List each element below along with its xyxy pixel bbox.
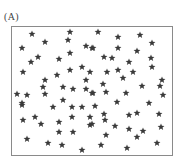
star-icon [114, 98, 121, 105]
star-icon [42, 38, 49, 45]
star-icon [126, 58, 133, 65]
star-icon [35, 53, 42, 60]
star-icon [29, 30, 36, 37]
star-icon [42, 76, 49, 83]
star-icon [120, 74, 127, 81]
star-icon [134, 47, 141, 54]
star-icon [112, 122, 119, 129]
star-icon [69, 103, 76, 110]
star-icon [67, 49, 74, 56]
star-icon [69, 113, 76, 120]
star-icon [115, 33, 122, 40]
star-icon [79, 103, 86, 110]
star-icon [146, 99, 153, 106]
star-icon [130, 68, 137, 75]
star-icon [83, 76, 90, 83]
star-icon [156, 110, 163, 117]
star-icon [159, 76, 166, 83]
star-icon [79, 63, 86, 70]
star-icon [109, 54, 116, 61]
star-icon [139, 82, 146, 89]
star-icon [101, 110, 108, 117]
star-scatter [0, 0, 178, 162]
star-icon [124, 144, 131, 151]
star-icon [60, 96, 67, 103]
star-icon [56, 118, 63, 125]
star-icon [87, 68, 94, 75]
star-icon [103, 88, 110, 95]
star-icon [126, 111, 133, 118]
star-icon [158, 123, 165, 130]
star-icon [126, 125, 133, 132]
star-icon [67, 66, 74, 73]
star-icon [101, 53, 108, 60]
star-icon [19, 44, 26, 51]
star-icon [40, 83, 47, 90]
star-icon [42, 90, 49, 97]
star-icon [115, 66, 122, 73]
star-icon [134, 133, 141, 140]
star-icon [59, 141, 66, 148]
star-icon [56, 55, 63, 62]
star-icon [154, 139, 161, 146]
star-icon [28, 58, 35, 65]
star-icon [140, 127, 147, 134]
star-icon [70, 128, 77, 135]
star-icon [115, 44, 122, 51]
star-icon [103, 131, 110, 138]
star-icon [14, 90, 21, 97]
star-icon [134, 109, 141, 116]
star-icon [20, 68, 27, 75]
star-icon [87, 113, 94, 120]
star-icon [157, 82, 164, 89]
star-icon [160, 91, 167, 98]
star-icon [60, 83, 67, 90]
star-icon [123, 89, 130, 96]
star-icon [83, 42, 90, 49]
star-icon [32, 113, 39, 120]
star-icon [45, 139, 52, 146]
star-icon [79, 146, 86, 153]
star-icon [50, 103, 57, 110]
star-icon [148, 54, 155, 61]
star-icon [104, 68, 111, 75]
star-icon [137, 31, 144, 38]
star-icon [149, 39, 156, 46]
star-icon [38, 120, 45, 127]
star-icon [100, 80, 107, 87]
star-icon [95, 28, 102, 35]
star-icon [98, 141, 105, 148]
star-icon [67, 28, 74, 35]
star-icon [83, 85, 90, 92]
star-icon [54, 71, 61, 78]
star-icon [20, 116, 27, 123]
star-icon [56, 128, 63, 135]
star-icon [65, 36, 72, 43]
star-icon [149, 63, 156, 70]
star-icon [24, 91, 31, 98]
star-icon [92, 102, 99, 109]
star-icon [102, 116, 109, 123]
star-icon [70, 85, 77, 92]
star-icon [24, 135, 31, 142]
